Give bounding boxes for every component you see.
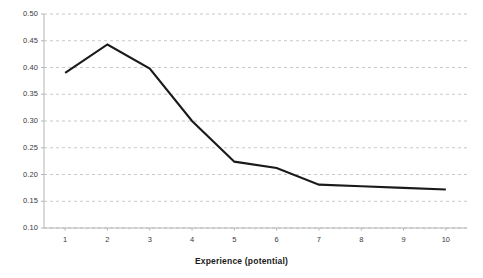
line-chart: 0.500.450.400.350.300.250.200.150.10 123… xyxy=(0,0,483,278)
x-tick-label: 7 xyxy=(309,235,329,244)
y-tick-label: 0.35 xyxy=(10,89,38,98)
y-tick-label: 0.20 xyxy=(10,170,38,179)
y-tick-label: 0.15 xyxy=(10,196,38,205)
y-tick-label: 0.40 xyxy=(10,63,38,72)
y-tick-label: 0.25 xyxy=(10,143,38,152)
data-series-line xyxy=(65,45,446,190)
x-tick-label: 9 xyxy=(394,235,414,244)
x-tick-label: 5 xyxy=(224,235,244,244)
x-tick-label: 10 xyxy=(436,235,456,244)
y-tick-label: 0.50 xyxy=(10,9,38,18)
gridlines xyxy=(44,14,467,228)
x-tick-label: 4 xyxy=(182,235,202,244)
x-tick-label: 1 xyxy=(55,235,75,244)
x-axis-title: Experience (potential) xyxy=(0,256,483,266)
y-tick-label: 0.30 xyxy=(10,116,38,125)
x-tick-label: 6 xyxy=(267,235,287,244)
x-tick-label: 3 xyxy=(140,235,160,244)
x-tick-label: 2 xyxy=(97,235,117,244)
x-tick-label: 8 xyxy=(351,235,371,244)
y-tick-label: 0.10 xyxy=(10,223,38,232)
y-tick-label: 0.45 xyxy=(10,36,38,45)
